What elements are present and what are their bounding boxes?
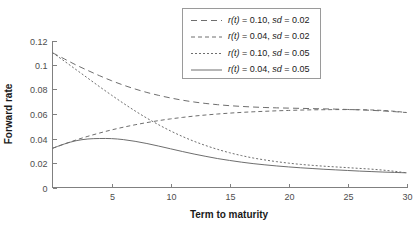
x-tick-label: 20: [284, 192, 294, 202]
chart-canvas: 00.020.040.060.080.10.12 51015202530 Ter…: [0, 0, 419, 226]
x-tick-label: 25: [343, 192, 353, 202]
y-tick-label: 0.08: [30, 85, 48, 95]
y-tick-label: 0.06: [30, 110, 48, 120]
chart-legend: r(t) = 0.10, sd = 0.02r(t) = 0.04, sd = …: [183, 9, 321, 79]
y-tick-label: 0.1: [35, 61, 48, 71]
y-tick-label: 0: [42, 184, 47, 194]
y-tick-label: 0.02: [30, 159, 48, 169]
y-tick-label: 0.04: [30, 135, 48, 145]
legend-label-3: r(t) = 0.04, sd = 0.05: [228, 64, 310, 74]
x-tick-label: 15: [225, 192, 235, 202]
y-tick-label: 0.12: [30, 37, 48, 47]
y-axis-title: Forward rate: [3, 83, 14, 144]
forward-rate-chart: 00.020.040.060.080.10.12 51015202530 Ter…: [0, 0, 419, 226]
x-tick-label: 5: [110, 192, 115, 202]
legend-label-0: r(t) = 0.10, sd = 0.02: [228, 15, 310, 25]
legend-label-1: r(t) = 0.04, sd = 0.02: [228, 31, 310, 41]
x-tick-label: 30: [402, 192, 412, 202]
x-tick-label: 10: [166, 192, 176, 202]
legend-label-2: r(t) = 0.10, sd = 0.05: [228, 48, 310, 58]
x-axis-title: Term to maturity: [190, 209, 269, 220]
